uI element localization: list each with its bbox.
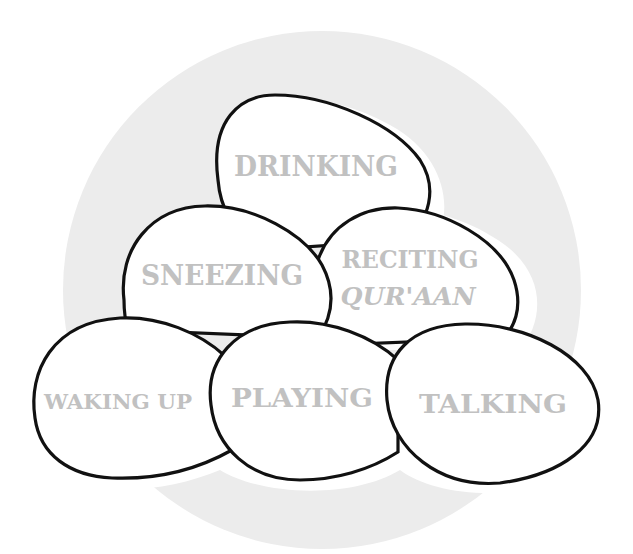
egg-drinking-label: DRINKING xyxy=(234,151,398,182)
egg-cluster-illustration: DRINKING RECITING QUR'AAN SNEEZING WAKIN… xyxy=(0,0,633,554)
egg-waking-up[interactable]: WAKING UP xyxy=(34,318,232,478)
egg-reciting-label-line1: RECITING xyxy=(342,245,479,274)
egg-waking-up-label: WAKING UP xyxy=(43,389,192,414)
egg-playing-label: PLAYING xyxy=(231,383,373,413)
egg-talking-label: TALKING xyxy=(419,389,567,419)
egg-sneezing-label: SNEEZING xyxy=(141,260,303,291)
egg-playing[interactable]: PLAYING xyxy=(210,322,398,480)
egg-reciting-label-line2: QUR'AAN xyxy=(341,282,477,311)
